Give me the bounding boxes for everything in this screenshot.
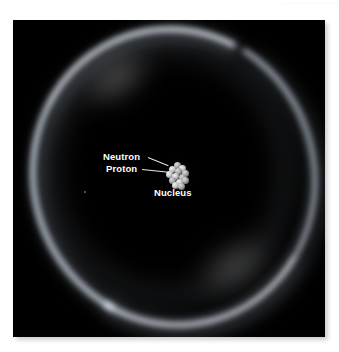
shell-hotspot-lower-right (161, 200, 307, 330)
label-proton: Proton (106, 163, 137, 174)
label-neutron: Neutron (103, 151, 140, 162)
film-speckle (84, 191, 86, 193)
shell-hotspot-upper-left (48, 20, 187, 142)
label-nucleus: Nucleus (154, 187, 192, 198)
nucleus-cluster (165, 162, 191, 188)
watermark-text: ••••••••••• •••••••••••• (238, 0, 339, 14)
atom-photograph: Neutron Proton Nucleus (13, 20, 325, 337)
